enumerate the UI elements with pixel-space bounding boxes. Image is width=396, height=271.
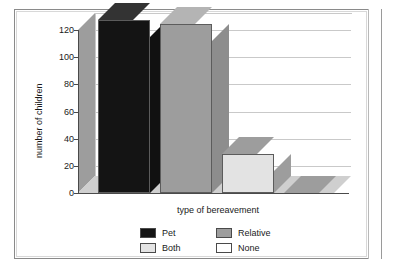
y-tick-label-40: 40 (44, 135, 74, 144)
legend-swatch-relative (216, 228, 232, 238)
bar-none (284, 0, 336, 193)
y-tickmark-100 (74, 57, 78, 58)
bar-relative-top (160, 7, 212, 24)
bar-both (222, 0, 274, 193)
y-tick-label-80: 80 (44, 80, 74, 89)
bar-pet-top (98, 3, 150, 20)
legend-swatch-pet (140, 228, 156, 238)
legend-item-none: None (216, 240, 288, 255)
y-tick-label-60: 60 (44, 108, 74, 117)
y-axis-line (78, 30, 79, 194)
y-tickmark-80 (74, 84, 78, 85)
legend-swatch-both (140, 243, 156, 253)
bar-none-top (284, 176, 336, 193)
y-tickmark-20 (74, 166, 78, 167)
y-tick-label-20: 20 (44, 162, 74, 171)
bar-pet-front (98, 20, 150, 193)
bar-relative-front (160, 24, 212, 193)
legend-item-both: Both (140, 240, 198, 255)
y-tickmark-120 (74, 30, 78, 31)
legend-swatch-none (216, 243, 232, 253)
legend-item-pet: Pet (140, 225, 198, 240)
y-tickmark-60 (74, 112, 78, 113)
chart-legend: Pet Relative Both None (140, 225, 330, 255)
y-tick-label-100: 100 (44, 53, 74, 62)
bar-both-top (222, 137, 274, 154)
legend-label-pet: Pet (162, 228, 176, 238)
legend-label-none: None (238, 243, 260, 253)
x-axis-line (78, 193, 349, 194)
legend-item-relative: Relative (216, 225, 288, 240)
bar-relative (160, 0, 212, 193)
y-tick-label-0: 0 (44, 189, 74, 198)
y-tick-labels: 120 100 80 60 40 20 0 (40, 0, 74, 271)
y-tick-label-120: 120 (44, 26, 74, 35)
legend-label-both: Both (162, 243, 181, 253)
bar-both-front (222, 154, 274, 193)
chart-page: 120 100 80 60 40 20 0 number of children… (0, 0, 396, 271)
chart-left-wall-3d (78, 13, 95, 193)
x-axis-title: type of bereavement (118, 205, 318, 215)
legend-label-relative: Relative (238, 228, 271, 238)
y-axis-title: number of children (34, 83, 44, 158)
y-tickmark-0 (74, 193, 78, 194)
bar-pet (98, 0, 150, 193)
y-tickmark-40 (74, 139, 78, 140)
